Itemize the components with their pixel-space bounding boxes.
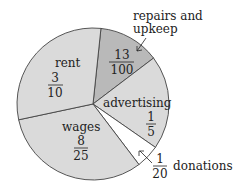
advertising-denominator: 5 [147,125,155,139]
donations-numerator: 1 [156,152,164,166]
repairs-label-line1: repairs and [133,9,203,23]
donations-label: donations [173,159,233,173]
repairs-label-line2: upkeep [133,22,178,36]
rent-label: rent [55,56,81,70]
repairs-denominator: 100 [111,63,134,77]
wages-label: wages [62,120,100,134]
repairs-numerator: 13 [114,48,129,62]
advertising-label: advertising [103,96,172,110]
rent-denominator: 10 [47,86,62,100]
pie-chart: rent 3 10 repairs and upkeep 13 100 adve… [0,0,245,189]
wages-numerator: 8 [77,134,85,148]
wages-denominator: 25 [73,149,88,163]
rent-numerator: 3 [51,71,59,85]
donations-denominator: 20 [152,167,167,181]
advertising-numerator: 1 [147,110,155,124]
